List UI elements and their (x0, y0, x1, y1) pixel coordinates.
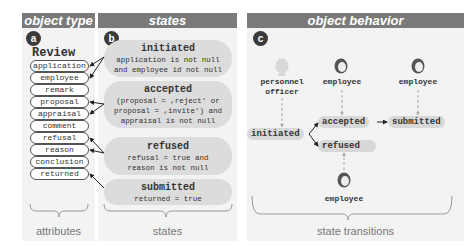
node-initiated: initiated (247, 128, 304, 140)
attribute-comment: comment (30, 120, 89, 132)
node-accepted: accepted (318, 116, 369, 128)
object-behavior-header: object behavior (247, 13, 464, 28)
node-refused: refused (318, 140, 376, 152)
states-header: states (98, 13, 237, 28)
employee-icon (336, 172, 352, 190)
state-condition: returned = true (104, 194, 232, 204)
actor-label-line: officer (256, 87, 308, 97)
state-condition: application is not null (104, 55, 232, 65)
badge-c: c (253, 31, 268, 46)
state-initiated: initiated application is not null and em… (104, 40, 232, 77)
attribute-returned: returned (30, 168, 89, 180)
actor-personnel-officer: personnel officer (256, 77, 308, 97)
attribute-application: application (30, 60, 89, 72)
state-title: refused (104, 141, 232, 153)
state-accepted: accepted (proposal = ,reject' or proposa… (104, 81, 232, 128)
actor-label-line: employee (392, 77, 444, 87)
attribute-reason: reason (30, 144, 89, 156)
node-submitted: submitted (388, 116, 445, 128)
attribute-appraisal: appraisal (30, 108, 89, 120)
actor-label-line: employee (316, 77, 368, 87)
actor-employee-2: employee (392, 77, 444, 87)
actor-label-line: employee (318, 194, 370, 204)
attribute-remark: remark (30, 84, 89, 96)
state-condition: appraisal is not null (104, 116, 232, 126)
state-submitted: submitted returned = true (104, 179, 232, 205)
state-title: initiated (104, 43, 232, 55)
states-label: states (98, 225, 237, 237)
personnel-officer-icon (274, 58, 290, 76)
employee-icon (333, 58, 349, 76)
object-type-header: object type (22, 13, 95, 28)
state-title: accepted (104, 84, 232, 96)
state-refused: refused refusal = true and reason is not… (104, 137, 232, 175)
state-condition: and employee id not null (104, 65, 232, 75)
attribute-conclusion: conclusion (30, 156, 89, 168)
actor-label-line: personnel (256, 77, 308, 87)
attribute-proposal: proposal (30, 96, 89, 108)
actor-employee-3: employee (318, 194, 370, 204)
state-title: submitted (104, 182, 232, 194)
attributes-label: attributes (22, 225, 95, 237)
state-condition: refusal = true and (104, 153, 232, 163)
badge-a: a (26, 31, 41, 46)
state-condition: proposal = ,invite') and (104, 106, 232, 116)
employee-icon (410, 58, 426, 76)
actor-employee-1: employee (316, 77, 368, 87)
state-transitions-label: state transitions (247, 225, 464, 237)
attribute-employee: employee (30, 72, 89, 84)
attribute-refusal: refusal (30, 132, 89, 144)
state-condition: reason is not null (104, 163, 232, 173)
state-condition: (proposal = ,reject' or (104, 96, 232, 106)
object-type-name: Review (32, 46, 75, 60)
